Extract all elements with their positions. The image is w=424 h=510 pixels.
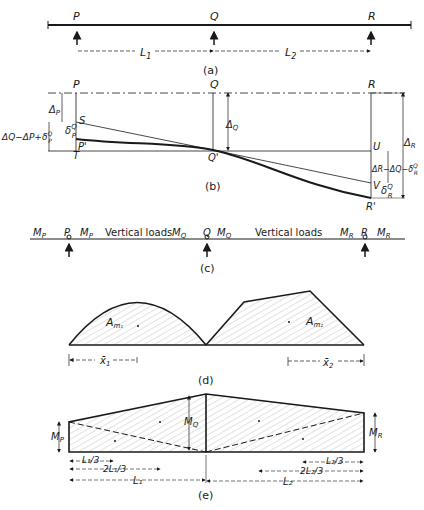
- point-V-label: V: [373, 180, 381, 191]
- svg-text:Q: Q: [203, 227, 211, 238]
- label-Q: Q: [210, 10, 219, 23]
- panel-b: P Q R S P' T Q' U V R' ΔP δQP ΔQ−ΔP+δQP …: [1, 78, 418, 212]
- svg-text:ΔR−ΔQ−δQR: ΔR−ΔQ−δQR: [371, 162, 418, 176]
- vertical-loads-label: Vertical loads: [105, 227, 172, 238]
- svg-text:δQP: δQP: [65, 123, 77, 140]
- label-Q: Q: [210, 78, 219, 91]
- svg-text:L1: L1: [140, 46, 151, 61]
- svg-text:ΔR: ΔR: [403, 137, 416, 150]
- caption-e: (e): [198, 489, 213, 502]
- caption-b: (b): [205, 180, 221, 193]
- point-Pprime-label: P': [78, 141, 87, 152]
- svg-text:MQ: MQ: [172, 227, 187, 240]
- label-R: R: [368, 78, 376, 91]
- svg-text:ΔQ−ΔP+δQP: ΔQ−ΔP+δQP: [1, 130, 52, 144]
- svg-text:P: P: [64, 227, 71, 238]
- svg-text:x̄2: x̄2: [322, 357, 334, 370]
- panel-c: MP P MP Vertical loads MQ Q MQ Vertical …: [30, 227, 405, 275]
- point-Qprime-label: Q': [208, 152, 219, 163]
- svg-text:δQR: δQR: [381, 183, 393, 200]
- point-T-label: T: [73, 150, 80, 161]
- svg-text:MR: MR: [340, 227, 354, 240]
- svg-text:MR: MR: [369, 427, 383, 440]
- svg-text:2L₂/3: 2L₂/3: [300, 466, 323, 476]
- svg-text:MP: MP: [33, 227, 47, 240]
- svg-text:MP: MP: [80, 227, 94, 240]
- panel-a: P Q R L1 L2 (a): [48, 10, 411, 77]
- svg-text:MR: MR: [377, 227, 391, 240]
- caption-a: (a): [203, 64, 218, 77]
- svg-text:ΔP: ΔP: [48, 104, 61, 117]
- svg-text:R: R: [361, 227, 368, 238]
- svg-text:L₂: L₂: [283, 476, 293, 487]
- svg-text:MP: MP: [51, 431, 65, 444]
- vertical-loads-label: Vertical loads: [255, 227, 322, 238]
- svg-text:L2: L2: [285, 46, 296, 61]
- svg-text:2L₁/3: 2L₁/3: [103, 464, 126, 474]
- label-P: P: [73, 10, 80, 23]
- panel-d: Am₁ Am₂ x̄1 x̄2 (d): [69, 291, 364, 387]
- beam-diagram-figure: P Q R L1 L2 (a) P Q R S P' T Q' U V: [0, 0, 424, 510]
- svg-text:x̄1: x̄1: [99, 355, 110, 368]
- panel-e: MP MQ MR L₁/3 2L₁/3 L₁ L₂/3 2L₂/3 L₂ (e): [51, 394, 383, 502]
- label-R: R: [368, 10, 376, 23]
- svg-text:L₁: L₁: [133, 475, 143, 486]
- svg-text:L₁/3: L₁/3: [82, 455, 100, 465]
- label-P: P: [73, 78, 80, 91]
- point-U-label: U: [373, 141, 381, 152]
- svg-text:ΔQ: ΔQ: [225, 119, 239, 132]
- svg-text:MQ: MQ: [217, 227, 232, 240]
- point-S-label: S: [79, 115, 86, 126]
- caption-c: (c): [200, 262, 215, 275]
- svg-text:L₂/3: L₂/3: [326, 456, 344, 466]
- caption-d: (d): [198, 374, 214, 387]
- point-Rprime-label: R': [366, 201, 376, 212]
